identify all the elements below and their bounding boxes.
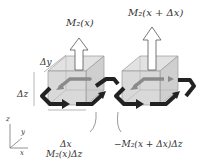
delta-x-label: Δx bbox=[60, 140, 72, 149]
mz-left-label: M₂(x) bbox=[66, 18, 94, 28]
current-right-label: −M₂(x + Δx)Δz bbox=[114, 140, 183, 149]
leader-lines bbox=[90, 112, 121, 132]
delta-y-label: Δy bbox=[40, 58, 52, 67]
delta-z-label: Δz bbox=[17, 90, 28, 99]
current-left-label: M₂(x)Δz bbox=[46, 150, 82, 159]
axis-z-label: z bbox=[6, 116, 10, 123]
mz-right-label: M₂(x + Δx) bbox=[128, 8, 183, 18]
axis-x-label: x bbox=[20, 150, 24, 157]
axes-icon bbox=[10, 124, 28, 148]
axis-y-label: y bbox=[21, 129, 25, 136]
